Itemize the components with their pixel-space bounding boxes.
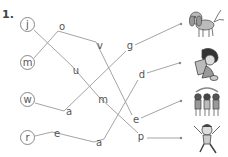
letter-e: e — [54, 129, 60, 139]
letter-u: u — [73, 66, 79, 76]
jumping-child-icon — [194, 125, 220, 154]
letter-p: p — [138, 132, 144, 142]
arrow-to-group — [141, 101, 180, 118]
letter-o: o — [59, 22, 65, 32]
reading-child-icon — [195, 48, 218, 80]
letter-g: g — [127, 41, 133, 51]
start-letter-r[interactable]: r — [20, 130, 35, 145]
letter-v: v — [97, 41, 103, 51]
letter-a-bottom: a — [96, 138, 102, 148]
letter-d: d — [139, 70, 145, 80]
arrow-to-dog — [135, 24, 180, 45]
exercise-number: 1. — [2, 8, 14, 21]
arrow-to-reader — [147, 63, 179, 73]
letter-e-right: e — [133, 115, 139, 125]
letter-m: m — [98, 95, 108, 105]
word-path-exercise: 1. j m w r o v u m a e a g d e p — [0, 0, 228, 157]
path-jump — [34, 30, 138, 133]
start-letter-j[interactable]: j — [20, 17, 35, 32]
letter-a: a — [66, 107, 72, 117]
children-group-icon — [195, 88, 220, 116]
start-letter-w[interactable]: w — [20, 92, 35, 107]
dog-picture-icon — [190, 10, 225, 37]
path-wag — [35, 51, 126, 111]
start-letter-m[interactable]: m — [20, 55, 35, 70]
